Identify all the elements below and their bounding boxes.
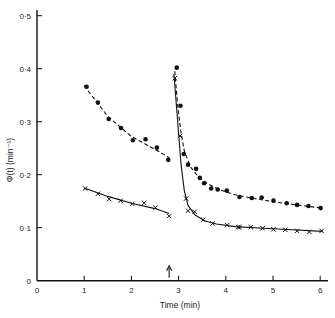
y-tick-label: 0·3 bbox=[19, 118, 31, 127]
data-points bbox=[83, 65, 324, 234]
y-tick-label: 0 bbox=[27, 277, 32, 286]
dashed-fit-curve bbox=[175, 71, 323, 208]
annotations bbox=[167, 266, 172, 278]
y-tick-label: 0·1 bbox=[19, 224, 31, 233]
dot-marker bbox=[143, 137, 148, 142]
dot-marker bbox=[295, 203, 300, 208]
solid-fit-curve bbox=[84, 188, 169, 214]
x-tick-label: 0 bbox=[35, 286, 40, 295]
dot-marker bbox=[249, 196, 254, 201]
dot-marker bbox=[174, 65, 179, 70]
fit-curves bbox=[84, 71, 322, 231]
cross-marker bbox=[186, 209, 190, 213]
dot-marker bbox=[209, 186, 214, 191]
x-tick-label: 1 bbox=[82, 286, 87, 295]
x-tick-label: 6 bbox=[318, 286, 323, 295]
dot-marker bbox=[155, 145, 160, 150]
dot-marker bbox=[181, 152, 186, 157]
solid-fit-curve bbox=[174, 74, 323, 231]
x-tick-label: 4 bbox=[224, 286, 229, 295]
cross-marker bbox=[201, 218, 205, 222]
x-tick-label: 5 bbox=[271, 286, 276, 295]
chart: 00·10·20·30·40·50123456 Time (min) Φ(t) … bbox=[0, 0, 335, 318]
dot-marker bbox=[166, 158, 171, 163]
dot-marker bbox=[224, 188, 229, 193]
up-arrow-icon bbox=[167, 266, 172, 278]
dot-marker bbox=[131, 138, 136, 143]
axes: 00·10·20·30·40·50123456 bbox=[19, 10, 328, 295]
y-tick-label: 0·5 bbox=[19, 12, 31, 21]
dot-marker bbox=[202, 181, 207, 186]
y-tick-label: 0·2 bbox=[19, 171, 31, 180]
cross-marker bbox=[142, 201, 146, 205]
cross-marker bbox=[295, 229, 299, 233]
x-tick-label: 2 bbox=[129, 286, 134, 295]
dot-marker bbox=[84, 84, 89, 89]
cross-marker bbox=[107, 197, 111, 201]
x-tick-label: 3 bbox=[176, 286, 181, 295]
dot-marker bbox=[259, 195, 264, 200]
dot-marker bbox=[215, 187, 220, 192]
dot-marker bbox=[119, 126, 124, 131]
dot-marker bbox=[306, 204, 311, 209]
cross-marker bbox=[167, 214, 171, 218]
dot-marker bbox=[178, 104, 183, 109]
y-axis-title: Φ(t) (min⁻¹) bbox=[5, 138, 15, 183]
dot-marker bbox=[186, 162, 191, 167]
dot-marker bbox=[96, 100, 101, 105]
dot-marker bbox=[284, 201, 289, 206]
dot-marker bbox=[198, 176, 203, 181]
dot-marker bbox=[194, 167, 199, 172]
dot-marker bbox=[106, 117, 111, 122]
x-axis-title: Time (min) bbox=[160, 300, 200, 310]
dot-marker bbox=[271, 198, 276, 203]
y-tick-label: 0·4 bbox=[19, 65, 31, 74]
dot-marker bbox=[318, 206, 323, 211]
dot-marker bbox=[237, 195, 242, 200]
